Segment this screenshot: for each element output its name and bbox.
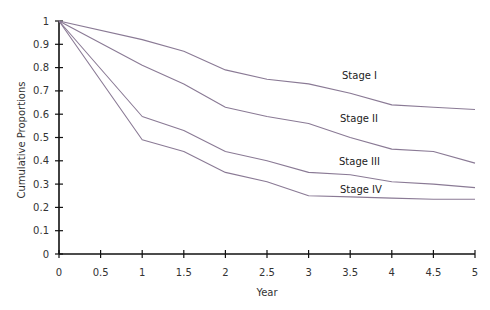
y-axis-title: Cumulative Proportions bbox=[16, 81, 27, 198]
label-stage-3: Stage III bbox=[339, 156, 380, 167]
label-stage-1: Stage I bbox=[342, 70, 377, 81]
y-tick-label: 0.1 bbox=[33, 225, 49, 236]
x-tick-label: 5 bbox=[472, 267, 478, 278]
y-tick-label: 0.7 bbox=[33, 85, 49, 96]
x-tick-label: 2.5 bbox=[259, 267, 275, 278]
series-lines bbox=[59, 21, 475, 199]
x-tick-label: 2 bbox=[222, 267, 228, 278]
survival-line-chart: 00.10.20.30.40.50.60.70.80.91 00.511.522… bbox=[0, 0, 490, 310]
y-tick-label: 0.4 bbox=[33, 155, 49, 166]
series-line-stage-4 bbox=[59, 21, 475, 199]
y-tick-label: 0.6 bbox=[33, 109, 49, 120]
x-tick-label: 1 bbox=[139, 267, 145, 278]
label-stage-4: Stage IV bbox=[340, 184, 382, 195]
y-tick-label: 0 bbox=[43, 249, 49, 260]
y-tick-label: 0.5 bbox=[33, 132, 49, 143]
x-axis: 00.511.522.533.544.55 bbox=[56, 250, 478, 278]
y-tick-label: 1 bbox=[43, 16, 49, 27]
label-stage-2: Stage II bbox=[340, 113, 378, 124]
y-tick-label: 0.9 bbox=[33, 39, 49, 50]
x-tick-label: 1.5 bbox=[176, 267, 192, 278]
y-tick-label: 0.2 bbox=[33, 202, 49, 213]
x-tick-label: 4.5 bbox=[425, 267, 441, 278]
series-line-stage-3 bbox=[59, 21, 475, 188]
x-tick-label: 0 bbox=[56, 267, 62, 278]
y-tick-label: 0.8 bbox=[33, 62, 49, 73]
x-tick-label: 4 bbox=[389, 267, 395, 278]
y-tick-label: 0.3 bbox=[33, 179, 49, 190]
x-tick-label: 0.5 bbox=[93, 267, 109, 278]
x-tick-label: 3 bbox=[305, 267, 311, 278]
x-axis-title: Year bbox=[255, 287, 278, 298]
series-line-stage-1 bbox=[59, 21, 475, 110]
x-tick-label: 3.5 bbox=[342, 267, 358, 278]
y-axis: 00.10.20.30.40.50.60.70.80.91 bbox=[33, 16, 63, 260]
